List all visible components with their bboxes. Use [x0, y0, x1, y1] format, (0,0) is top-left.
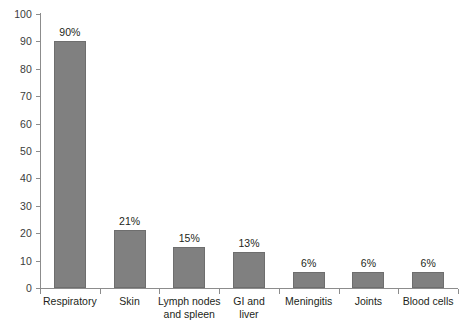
y-tick-label: 0 — [0, 283, 32, 294]
x-category-label: Blood cells — [394, 295, 462, 308]
bar[interactable] — [293, 272, 325, 288]
bar[interactable] — [412, 272, 444, 288]
bar-value-label: 15% — [159, 233, 219, 244]
y-tick-label: 90 — [0, 36, 32, 47]
x-tick-mark — [40, 289, 41, 294]
bar-value-label: 6% — [279, 258, 339, 269]
bar-value-label: 6% — [398, 258, 458, 269]
x-tick-mark — [100, 289, 101, 294]
bar-value-label: 6% — [338, 258, 398, 269]
bar[interactable] — [173, 247, 205, 288]
bar-value-label: 13% — [219, 238, 279, 249]
x-axis-line — [40, 288, 458, 289]
x-category-label: Lymph nodes and spleen — [155, 295, 223, 321]
y-tick-label: 70 — [0, 91, 32, 102]
y-tick-label: 80 — [0, 64, 32, 75]
bar[interactable] — [114, 230, 146, 288]
x-tick-mark — [398, 289, 399, 294]
bar[interactable] — [54, 41, 86, 288]
y-tick-label: 30 — [0, 201, 32, 212]
x-tick-mark — [458, 289, 459, 294]
y-tick-label: 10 — [0, 256, 32, 267]
x-tick-mark — [339, 289, 340, 294]
x-category-label: Respiratory — [36, 295, 104, 308]
x-category-label: Meningitis — [275, 295, 343, 308]
x-category-label: Skin — [96, 295, 164, 308]
bar-value-label: 90% — [40, 27, 100, 38]
y-tick-label: 40 — [0, 173, 32, 184]
x-tick-mark — [219, 289, 220, 294]
y-tick-label: 50 — [0, 146, 32, 157]
bar[interactable] — [352, 272, 384, 288]
y-tick-label: 100 — [0, 9, 32, 20]
x-category-label: GI and liver — [215, 295, 283, 321]
x-tick-mark — [279, 289, 280, 294]
x-category-label: Joints — [335, 295, 403, 308]
bar-chart: 1009080706050403020100 90%21%15%13%6%6%6… — [0, 0, 465, 328]
y-tick-label: 20 — [0, 228, 32, 239]
bar[interactable] — [233, 252, 265, 288]
bar-value-label: 21% — [100, 216, 160, 227]
y-tick-label: 60 — [0, 119, 32, 130]
x-tick-mark — [159, 289, 160, 294]
